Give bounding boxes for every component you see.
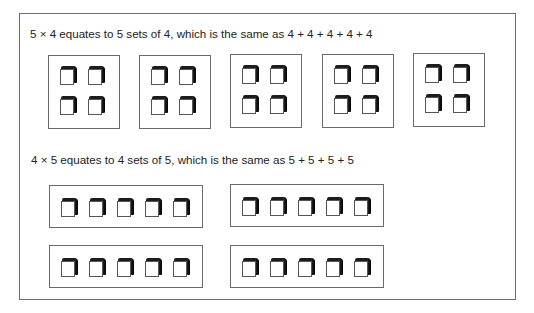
3d-cube-icon xyxy=(60,96,77,115)
set-of-5 xyxy=(230,184,384,227)
3d-cube-icon xyxy=(242,258,259,277)
3d-cube-icon xyxy=(117,198,134,217)
3d-cube-icon xyxy=(326,258,343,277)
3d-cube-icon xyxy=(354,258,371,277)
3d-cube-icon xyxy=(151,66,168,85)
3d-cube-icon xyxy=(88,96,105,115)
3d-cube-icon xyxy=(179,66,196,85)
3d-cube-icon xyxy=(270,95,287,114)
3d-cube-icon xyxy=(425,64,442,83)
set-of-4 xyxy=(139,55,211,129)
3d-cube-icon xyxy=(88,66,105,85)
3d-cube-icon xyxy=(61,198,78,217)
3d-cube-icon xyxy=(89,198,106,217)
3d-cube-icon xyxy=(334,65,351,84)
3d-cube-icon xyxy=(89,258,106,277)
caption-5x4: 5 × 4 equates to 5 sets of 4, which is t… xyxy=(30,27,373,40)
3d-cube-icon xyxy=(298,258,315,277)
3d-cube-icon xyxy=(179,96,196,115)
3d-cube-icon xyxy=(151,96,168,115)
set-of-5 xyxy=(230,245,384,288)
3d-cube-icon xyxy=(354,197,371,216)
set-of-5 xyxy=(49,185,203,228)
3d-cube-icon xyxy=(326,197,343,216)
3d-cube-icon xyxy=(173,198,190,217)
3d-cube-icon xyxy=(173,258,190,277)
3d-cube-icon xyxy=(270,197,287,216)
3d-cube-icon xyxy=(242,197,259,216)
3d-cube-icon xyxy=(362,65,379,84)
3d-cube-icon xyxy=(334,95,351,114)
3d-cube-icon xyxy=(242,65,259,84)
set-of-4 xyxy=(413,53,485,127)
3d-cube-icon xyxy=(270,65,287,84)
3d-cube-icon xyxy=(362,95,379,114)
set-of-4 xyxy=(322,54,394,128)
3d-cube-icon xyxy=(242,95,259,114)
3d-cube-icon xyxy=(145,198,162,217)
set-of-4 xyxy=(230,54,302,128)
3d-cube-icon xyxy=(61,258,78,277)
3d-cube-icon xyxy=(60,66,77,85)
3d-cube-icon xyxy=(145,258,162,277)
3d-cube-icon xyxy=(453,64,470,83)
3d-cube-icon xyxy=(270,258,287,277)
3d-cube-icon xyxy=(117,258,134,277)
3d-cube-icon xyxy=(425,94,442,113)
caption-4x5: 4 × 5 equates to 4 sets of 5, which is t… xyxy=(31,153,354,166)
3d-cube-icon xyxy=(453,94,470,113)
set-of-5 xyxy=(49,245,203,288)
set-of-4 xyxy=(48,55,120,129)
3d-cube-icon xyxy=(298,197,315,216)
